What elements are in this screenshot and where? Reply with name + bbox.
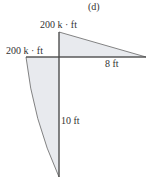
panel-label: (d): [88, 2, 100, 12]
moment-diagram-figure: (d) 200 k · ft 200 k · ft 8 ft 10 ft: [0, 0, 158, 194]
top-moment-label: 200 k · ft: [40, 20, 77, 30]
moment-diagram-svg: [0, 0, 158, 194]
column-moment-curve: [26, 57, 59, 177]
beam-length-label: 8 ft: [105, 59, 119, 69]
column-length-label: 10 ft: [61, 116, 80, 126]
left-moment-label: 200 k · ft: [6, 46, 43, 56]
beam-moment-triangle: [59, 32, 146, 57]
